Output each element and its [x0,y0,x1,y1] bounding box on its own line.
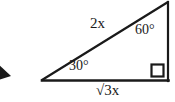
hypotenuse-label: 2x [90,16,105,31]
geometry-figure: 2x 60° 30° √3x [0,0,175,102]
triangle-hypotenuse-edge [42,2,168,80]
triangle-svg [0,0,175,102]
right-angle-icon [152,65,164,77]
base-label: √3x [96,83,119,98]
angle-label-30: 30° [69,59,89,73]
left-edge-arrow-icon [0,64,11,80]
angle-label-60: 60° [135,23,155,37]
